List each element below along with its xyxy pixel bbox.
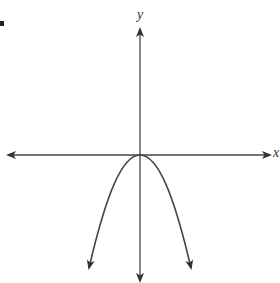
parabola-curve-right — [140, 155, 191, 268]
y-axis-label: y — [137, 8, 143, 22]
x-axis-label: x — [273, 146, 279, 160]
parabola-curve-left — [89, 155, 140, 268]
graph-canvas — [0, 0, 280, 283]
parabola-graph: y x — [0, 0, 280, 283]
